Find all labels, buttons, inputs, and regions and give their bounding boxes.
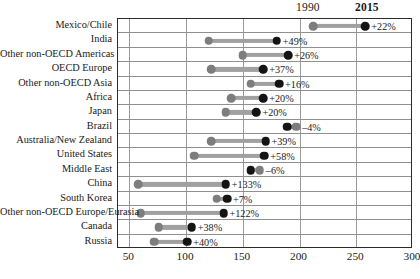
chart-row: +22% (118, 19, 411, 33)
connector-line (138, 182, 225, 186)
chart-row: +7% (118, 192, 411, 206)
data-point-2015 (259, 94, 268, 103)
connector-line (211, 139, 265, 143)
category-label: Japan (0, 104, 115, 118)
connector-line (313, 24, 365, 28)
change-label: –4% (302, 121, 321, 132)
chart-row: +122% (118, 206, 411, 220)
data-point-1990 (246, 79, 255, 88)
category-label: Other non-OECD Asia (0, 76, 115, 90)
category-label: South Korea (0, 191, 115, 205)
change-label: +16% (285, 78, 309, 89)
data-point-1990 (207, 65, 216, 74)
data-point-2015 (283, 123, 292, 132)
chart-row: +133% (118, 177, 411, 191)
data-point-1990 (221, 108, 230, 117)
category-label: Canada (0, 219, 115, 233)
legend-year-1990: 1990 (296, 1, 320, 13)
data-point-1990 (227, 94, 236, 103)
change-label: +49% (283, 35, 307, 46)
chart-row: +49% (118, 33, 411, 47)
data-point-1990 (309, 22, 318, 31)
change-label: +26% (294, 49, 318, 60)
data-point-1990 (256, 166, 265, 175)
data-point-2015 (252, 108, 261, 117)
x-tick-250: 250 (347, 250, 364, 262)
chart-row: +26% (118, 48, 411, 62)
x-tick-50: 50 (123, 250, 134, 262)
change-label: +58% (270, 150, 294, 161)
change-label: +37% (269, 64, 293, 75)
change-label: +39% (272, 136, 296, 147)
plot-area: +22%+49%+26%+37%+16%+20%+20%–4%+39%+58%–… (117, 18, 412, 248)
chart-row: +38% (118, 220, 411, 234)
data-point-2015 (219, 209, 228, 218)
data-point-1990 (204, 36, 213, 45)
change-label: +7% (233, 193, 252, 204)
chart-row: +20% (118, 105, 411, 119)
data-point-2015 (187, 223, 196, 232)
data-point-2015 (361, 22, 370, 31)
chart-row: –4% (118, 120, 411, 134)
chart-row: +39% (118, 134, 411, 148)
data-point-1990 (150, 238, 159, 247)
chart-row: +37% (118, 62, 411, 76)
change-label: +20% (269, 93, 293, 104)
data-point-1990 (292, 123, 301, 132)
change-label: +20% (262, 107, 286, 118)
chart-row: +40% (118, 235, 411, 249)
data-point-1990 (134, 180, 143, 189)
change-label: +122% (230, 208, 260, 219)
data-point-2015 (261, 137, 270, 146)
connector-line (211, 67, 263, 71)
category-label: Africa (0, 90, 115, 104)
category-label: Russia (0, 234, 115, 248)
category-label: Mexico/Chile (0, 18, 115, 32)
data-point-1990 (155, 223, 164, 232)
connector-line (194, 153, 264, 157)
data-point-2015 (260, 151, 269, 160)
data-point-2015 (246, 166, 255, 175)
data-point-1990 (190, 151, 199, 160)
data-point-2015 (273, 36, 282, 45)
data-point-2015 (259, 65, 268, 74)
chart-row: +20% (118, 91, 411, 105)
category-label: China (0, 176, 115, 190)
x-tick-300: 300 (404, 250, 420, 262)
x-tick-150: 150 (233, 250, 250, 262)
category-label: India (0, 32, 115, 46)
data-point-2015 (275, 79, 284, 88)
data-point-2015 (223, 194, 232, 203)
data-point-1990 (239, 51, 248, 60)
data-point-2015 (221, 180, 230, 189)
chart-row: –6% (118, 163, 411, 177)
category-label: Other non-OECD Europe/Eurasia (0, 205, 115, 219)
chart-row: +16% (118, 77, 411, 91)
change-label: +38% (198, 222, 222, 233)
category-label: OECD Europe (0, 61, 115, 75)
legend-year-2015: 2015 (355, 1, 379, 13)
chart-row: +58% (118, 148, 411, 162)
connector-line (141, 211, 224, 215)
change-label: +22% (371, 21, 395, 32)
category-label: United States (0, 147, 115, 161)
change-label: +133% (232, 179, 262, 190)
connector-line (209, 38, 277, 42)
data-point-2015 (284, 51, 293, 60)
change-label: +40% (193, 236, 217, 247)
change-label: –6% (266, 164, 285, 175)
category-label: Middle East (0, 162, 115, 176)
x-tick-100: 100 (177, 250, 194, 262)
category-label: Other non-OECD Americas (0, 47, 115, 61)
category-label: Brazil (0, 119, 115, 133)
data-point-2015 (183, 238, 192, 247)
x-tick-200: 200 (290, 250, 307, 262)
data-point-1990 (212, 194, 221, 203)
connector-line (243, 53, 288, 57)
category-label: Australia/New Zealand (0, 133, 115, 147)
data-point-1990 (207, 137, 216, 146)
